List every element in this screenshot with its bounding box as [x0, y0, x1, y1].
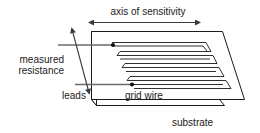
label-axis-of-sensitivity: axis of sensitivity — [93, 6, 203, 17]
label-substrate: substrate — [172, 117, 213, 128]
label-grid-wire: grid wire — [125, 90, 163, 101]
label-measured-resistance-line1: measured — [20, 54, 64, 65]
substrate-top-face — [92, 32, 245, 100]
label-leads: leads — [62, 90, 86, 101]
strain-gauge-diagram: axis of sensitivity measuredresistance l… — [0, 0, 260, 133]
label-measured-resistance-line2: resistance — [18, 65, 64, 76]
measured-resistance-arrow — [73, 33, 88, 89]
terminal-dot-upper — [111, 43, 115, 47]
terminal-dot-lower — [130, 82, 134, 86]
label-measured-resistance: measuredresistance — [2, 54, 64, 76]
